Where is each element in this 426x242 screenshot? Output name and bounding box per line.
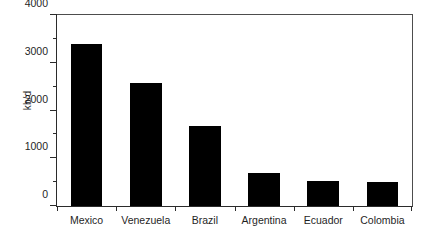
y-tick-major <box>50 157 57 158</box>
y-tick-label: 0 <box>42 188 48 200</box>
x-tick <box>175 206 176 211</box>
plot-area: 01000200030004000 MexicoVenezuelaBrazilA… <box>56 14 413 207</box>
y-tick-label: 2000 <box>25 93 48 105</box>
y-tick-major <box>50 110 57 111</box>
x-tick <box>411 206 412 211</box>
bar-chart-figure: kb/d 01000200030004000 MexicoVenezuelaBr… <box>0 0 426 242</box>
y-tick-label: 1000 <box>25 140 48 152</box>
y-tick-label: 4000 <box>25 0 48 9</box>
x-tick-label: Colombia <box>360 214 404 226</box>
x-tick <box>353 206 354 211</box>
y-tick-major <box>50 205 57 206</box>
y-tick-minor <box>53 181 57 182</box>
bar <box>189 126 221 206</box>
bar <box>248 173 280 206</box>
x-tick <box>116 206 117 211</box>
bar <box>307 181 339 206</box>
x-tick-label: Argentina <box>242 214 287 226</box>
x-tick <box>57 206 58 211</box>
y-tick-minor <box>53 86 57 87</box>
x-tick <box>235 206 236 211</box>
bar <box>71 44 103 206</box>
x-tick-label: Ecuador <box>304 214 343 226</box>
y-tick-major <box>50 62 57 63</box>
bar <box>367 182 399 206</box>
y-tick-label: 3000 <box>25 45 48 57</box>
x-tick-label: Brazil <box>192 214 218 226</box>
x-tick <box>294 206 295 211</box>
x-tick-label: Mexico <box>70 214 103 226</box>
y-tick-minor <box>53 133 57 134</box>
y-tick-minor <box>53 38 57 39</box>
y-tick-major <box>50 14 57 15</box>
bar <box>130 83 162 206</box>
x-tick-label: Venezuela <box>121 214 170 226</box>
